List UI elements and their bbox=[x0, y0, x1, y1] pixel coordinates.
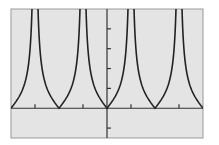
graph-plot bbox=[0, 0, 219, 145]
